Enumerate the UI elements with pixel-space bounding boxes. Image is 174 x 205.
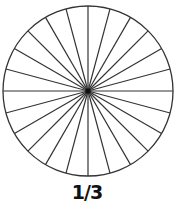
spoke-line bbox=[88, 9, 110, 91]
divided-circle-diagram bbox=[0, 0, 174, 205]
spoke-line bbox=[6, 91, 88, 113]
spoke-line bbox=[88, 69, 170, 91]
spoke-line bbox=[66, 9, 88, 91]
center-point bbox=[86, 89, 91, 94]
fraction-caption: 1/3 bbox=[0, 181, 174, 203]
spoke-line bbox=[6, 69, 88, 91]
spoke-line bbox=[88, 91, 110, 173]
spoke-line bbox=[66, 91, 88, 173]
spoke-line bbox=[88, 91, 170, 113]
